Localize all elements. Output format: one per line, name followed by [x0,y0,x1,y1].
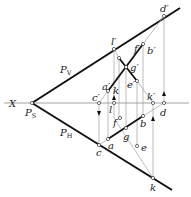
label-c: c [96,147,102,158]
label-e: e [141,142,147,153]
label-g-prime: g′ [130,62,139,73]
label-b: b [140,118,146,129]
arrow-up-d [162,91,166,96]
label-l: l [109,104,112,115]
axis-label-x: X [8,98,17,109]
label-ph: PH [59,127,73,140]
label-c-prime: c′ [92,92,101,103]
label-l-prime: l′ [111,36,117,47]
diagram-svg: X PV PH PS d′ l′ f′ b′ g′ e′ a′ c′ k k′ … [0,0,191,197]
label-d-prime: d′ [160,3,169,14]
label-ps: PS [24,107,36,120]
label-d: d [160,107,166,118]
label-b-prime: b′ [147,45,156,56]
label-g: g [123,131,129,142]
arrow-down-c [97,111,101,116]
label-f: f [112,117,119,128]
label-e-prime: e′ [127,79,136,90]
label-k: k [150,182,156,193]
arrow-up-kprime [151,116,155,121]
label-pv: PV [59,64,72,77]
label-k-prime: k′ [147,91,156,102]
label-a-prime: a′ [102,81,111,92]
label-k-upper: k [113,85,119,96]
label-f-prime: f′ [133,43,141,54]
projection-diagram: X PV PH PS d′ l′ f′ b′ g′ e′ a′ c′ k k′ … [0,0,191,197]
trace-ph [32,103,172,190]
direction-arrows [97,91,166,121]
label-a: a [108,140,114,151]
